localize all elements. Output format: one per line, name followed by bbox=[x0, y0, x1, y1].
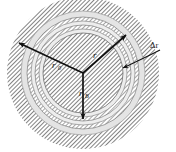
figure-container: r 0 r r B Δr bbox=[0, 0, 176, 152]
label-rb-subscript: B bbox=[85, 93, 89, 99]
concentric-rings-diagram: r 0 r r B Δr bbox=[0, 0, 176, 152]
label-r0-subscript: 0 bbox=[58, 65, 61, 71]
label-rb: r bbox=[79, 88, 83, 98]
label-r: r bbox=[93, 50, 97, 60]
label-r0: r bbox=[52, 60, 56, 70]
label-delta-r: Δr bbox=[150, 40, 158, 50]
